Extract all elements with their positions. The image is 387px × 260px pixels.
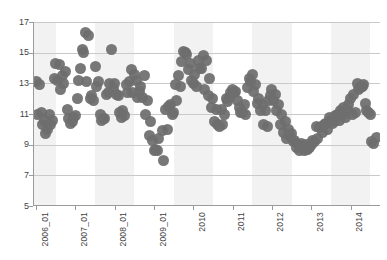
y-axis-tickmark xyxy=(29,114,33,115)
gridline xyxy=(33,145,380,146)
x-axis-tick-label: 2010 xyxy=(197,212,207,232)
y-axis-tick-label: 9 xyxy=(3,140,29,149)
data-point xyxy=(157,125,168,136)
data-point xyxy=(180,47,191,58)
x-axis-tickmark xyxy=(311,206,312,210)
x-axis-tick-label: 2009_01 xyxy=(158,212,168,247)
data-point xyxy=(111,89,122,100)
data-point xyxy=(106,44,117,55)
data-point xyxy=(219,109,230,120)
data-point xyxy=(262,121,273,132)
data-point xyxy=(167,109,178,120)
data-point xyxy=(363,107,374,118)
data-point xyxy=(98,113,109,124)
data-point xyxy=(75,63,86,74)
data-point xyxy=(90,61,101,72)
data-point xyxy=(307,135,318,146)
data-point xyxy=(158,155,169,166)
y-axis-tick-label: 7 xyxy=(3,171,29,180)
y-axis-tickmark xyxy=(29,22,33,23)
y-axis-tick-label: 5 xyxy=(3,202,29,211)
y-axis-tick-label: 17 xyxy=(3,18,29,27)
y-axis-tickmark xyxy=(29,206,33,207)
data-point xyxy=(203,90,214,101)
chart-screenshot: 57911131517 2006_012007_012008_012009_01… xyxy=(0,0,387,260)
x-axis-tickmark xyxy=(115,206,116,210)
data-point xyxy=(78,47,89,58)
data-point xyxy=(72,93,83,104)
x-axis-tick-label: 2012 xyxy=(275,212,285,232)
y-axis-tick-label: 11 xyxy=(3,110,29,119)
x-axis-tickmark xyxy=(75,206,76,210)
x-axis-tick-label: 2013 xyxy=(315,212,325,232)
data-point xyxy=(137,92,148,103)
x-axis-tickmark xyxy=(36,206,37,210)
x-axis-tickmark xyxy=(233,206,234,210)
gridline xyxy=(33,22,380,23)
x-axis-tickmark xyxy=(154,206,155,210)
x-axis-tick-label: 2008_01 xyxy=(118,212,128,247)
data-point xyxy=(58,78,69,89)
y-axis-tickmark xyxy=(29,83,33,84)
data-point xyxy=(196,63,207,74)
x-axis-tickmark xyxy=(272,206,273,210)
data-point xyxy=(88,95,99,106)
data-point xyxy=(131,75,142,86)
data-point xyxy=(268,95,279,106)
data-point xyxy=(60,66,71,77)
x-axis-tick-label: 2007_01 xyxy=(79,212,89,247)
y-axis-tickmark xyxy=(29,53,33,54)
y-axis-tick-label: 15 xyxy=(3,48,29,57)
x-axis-tick-label: 2006_01 xyxy=(40,212,50,247)
y-axis-tick-label: 13 xyxy=(3,79,29,88)
data-point xyxy=(150,144,161,155)
data-point xyxy=(248,86,259,97)
data-point xyxy=(83,30,94,41)
x-axis-tick-label: 2011 xyxy=(236,212,246,231)
data-point xyxy=(350,107,361,118)
data-point xyxy=(239,99,250,110)
y-axis: 57911131517 xyxy=(0,0,29,260)
y-axis-tickmark xyxy=(29,175,33,176)
x-axis-tick-label: 2014 xyxy=(354,212,364,232)
data-point xyxy=(357,81,368,92)
data-point xyxy=(140,109,151,120)
y-axis-tickmark xyxy=(29,145,33,146)
gridline xyxy=(33,175,380,176)
x-axis-tickmark xyxy=(351,206,352,210)
data-point xyxy=(68,112,79,123)
x-axis-tickmark xyxy=(193,206,194,210)
plot-area xyxy=(33,22,380,206)
